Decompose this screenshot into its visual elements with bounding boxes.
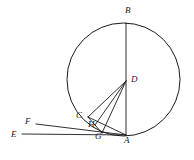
segment-DC-radius: [88, 81, 126, 117]
segment-FA-secant: [36, 124, 126, 135]
geometry-figure: B D C H G A F E: [0, 0, 194, 160]
segment-DH: [95, 81, 126, 125]
point-label-B: B: [125, 6, 131, 15]
point-label-C: C: [76, 111, 82, 120]
point-label-D: D: [131, 75, 138, 84]
point-label-E: E: [11, 130, 17, 139]
point-label-F: F: [25, 117, 31, 126]
main-circle: [67, 23, 180, 136]
point-label-H: H: [88, 120, 95, 129]
point-label-A: A: [124, 136, 130, 145]
point-label-G: G: [95, 132, 102, 141]
